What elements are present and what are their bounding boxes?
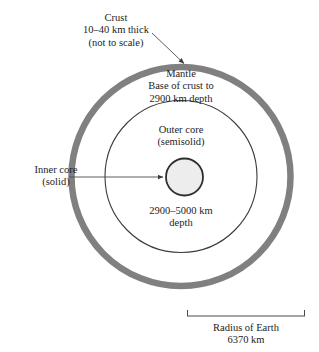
inner-core-circle xyxy=(166,159,203,196)
inner-core-label: Inner core (solid) xyxy=(8,164,104,189)
crust-label: Crust 10–40 km thick (not to scale) xyxy=(56,12,176,49)
radius-bracket xyxy=(187,310,305,316)
radius-label: Radius of Earth 6370 km xyxy=(186,322,306,347)
figure-canvas: Crust 10–40 km thick (not to scale) Mant… xyxy=(0,0,319,352)
outer-core-label: Outer core (semisolid) xyxy=(131,124,231,149)
outer-core-depth-label: 2900–5000 km depth xyxy=(126,205,236,230)
mantle-label: Mantle Base of crust to 2900 km depth xyxy=(121,68,241,105)
